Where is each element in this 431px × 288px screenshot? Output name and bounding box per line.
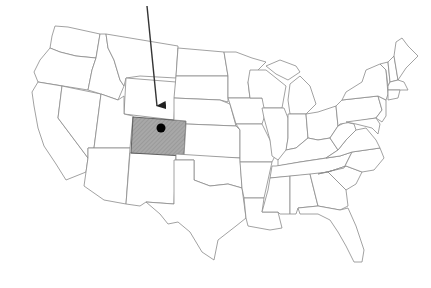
state-maine	[394, 38, 418, 80]
state-new-york	[342, 64, 388, 100]
state-kansas	[184, 124, 240, 158]
state-north-dakota	[176, 48, 228, 76]
states	[32, 26, 418, 262]
state-michigan	[288, 76, 316, 114]
us-map	[0, 0, 431, 288]
state-florida	[298, 206, 364, 262]
state-arizona	[84, 148, 130, 204]
state-massachusetts	[388, 80, 408, 90]
state-wyoming	[124, 78, 176, 120]
state-colorado	[131, 117, 186, 156]
location-marker-dot	[157, 124, 166, 133]
state-connecticut	[388, 90, 400, 100]
state-new-mexico	[126, 153, 176, 206]
